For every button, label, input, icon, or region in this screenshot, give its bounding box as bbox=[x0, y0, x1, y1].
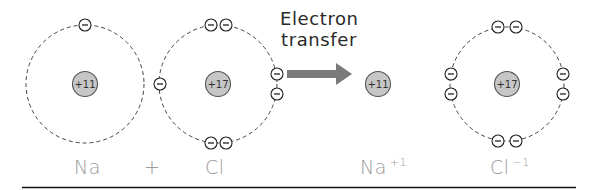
electron-icon bbox=[205, 19, 217, 31]
chloride-nucleus-charge: +17 bbox=[496, 79, 517, 90]
sodium-atom: +11 bbox=[26, 19, 144, 143]
electron-icon bbox=[510, 21, 522, 33]
plus-symbol: + bbox=[144, 156, 160, 178]
sodium-ion-charge: +1 bbox=[390, 156, 407, 169]
chlorine-atom: +17 bbox=[154, 19, 283, 149]
electron-icon bbox=[205, 137, 217, 149]
sodium-ion: +11 bbox=[366, 72, 391, 97]
chloride-ion-charge: −1 bbox=[513, 156, 530, 169]
sodium-ion-symbol: Na bbox=[360, 156, 387, 178]
sodium-symbol: Na bbox=[74, 156, 101, 178]
plus-operator: + bbox=[144, 156, 160, 178]
sodium-ion-nucleus-charge: +11 bbox=[367, 79, 388, 90]
electron-icon bbox=[220, 137, 232, 149]
electron-icon bbox=[557, 68, 569, 80]
electron-transfer-arrow bbox=[287, 63, 352, 85]
sodium-nucleus-charge: +11 bbox=[74, 79, 95, 90]
electron-icon bbox=[445, 68, 457, 80]
chloride-ion: +17 bbox=[445, 21, 569, 147]
chlorine-symbol: Cl bbox=[205, 156, 225, 178]
chlorine-label: Cl bbox=[205, 156, 225, 178]
chloride-ion-symbol: Cl bbox=[490, 156, 510, 178]
electron-icon bbox=[492, 21, 504, 33]
chlorine-nucleus-charge: +17 bbox=[207, 79, 228, 90]
electron-icon bbox=[557, 88, 569, 100]
caption-line-2: transfer bbox=[280, 29, 358, 50]
electron-icon bbox=[492, 135, 504, 147]
sodium-label: Na bbox=[74, 156, 101, 178]
chloride-ion-label: Cl−1 bbox=[490, 156, 530, 178]
electron-transfer-caption: Electron transfer bbox=[280, 8, 358, 50]
electron-icon bbox=[154, 78, 166, 90]
electron-icon bbox=[220, 19, 232, 31]
electron-icon bbox=[271, 88, 283, 100]
electron-icon bbox=[271, 68, 283, 80]
caption-line-1: Electron bbox=[280, 8, 358, 29]
electron-icon bbox=[510, 135, 522, 147]
electron-icon bbox=[79, 19, 91, 31]
electron-icon bbox=[445, 88, 457, 100]
sodium-ion-label: Na+1 bbox=[360, 156, 407, 178]
